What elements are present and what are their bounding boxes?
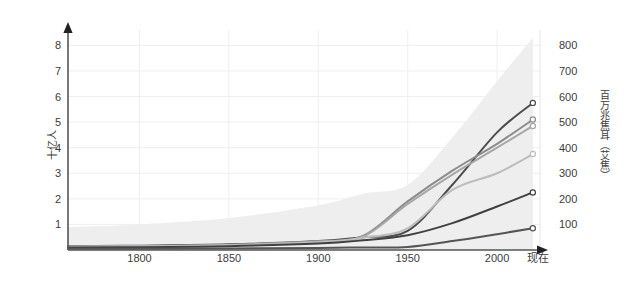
y-axis-tick-label: 1 xyxy=(55,218,61,230)
y2-axis-tick-label: 100 xyxy=(559,218,577,230)
x-axis-tick-labels: 18001850190019502000 xyxy=(127,252,509,264)
y2-axis-tick-label: 500 xyxy=(559,116,577,128)
y-axis-tick-label: 3 xyxy=(55,167,61,179)
uncertainty-band xyxy=(68,38,533,250)
series-end-marker-3 xyxy=(530,123,535,128)
y-axis-title: 十亿人 xyxy=(44,130,59,160)
y-axis-tick-label: 6 xyxy=(55,91,61,103)
y2-axis-tick-label: 400 xyxy=(559,142,577,154)
chart-container: 12345678 100200300400500600700800 180018… xyxy=(0,0,633,285)
y-axis xyxy=(63,22,72,250)
series-end-marker-1 xyxy=(530,100,535,105)
x-axis-tick-label: 1950 xyxy=(395,252,419,264)
y-axis-tick-label: 2 xyxy=(55,193,61,205)
y2-axis-tick-label: 200 xyxy=(559,193,577,205)
y2-axis-tick-labels: 100200300400500600700800 xyxy=(559,39,577,230)
series-end-marker-2 xyxy=(530,117,535,122)
y2-axis-tick-label: 700 xyxy=(559,65,577,77)
series-end-marker-5 xyxy=(530,190,535,195)
y2-axis-tick-label: 800 xyxy=(559,39,577,51)
x-axis-now-label: 现在 xyxy=(527,252,549,264)
y-axis-tick-label: 7 xyxy=(55,65,61,77)
y-axis-tick-label: 5 xyxy=(55,116,61,128)
x-axis-tick-label: 2000 xyxy=(485,252,509,264)
y2-axis-title: 百万兆焦耳（艾焦） xyxy=(598,90,608,180)
line-chart: 12345678 100200300400500600700800 180018… xyxy=(0,0,633,285)
band-area xyxy=(68,38,533,250)
y2-axis-tick-label: 600 xyxy=(559,91,577,103)
x-axis-tick-label: 1850 xyxy=(217,252,241,264)
y-axis-tick-label: 8 xyxy=(55,39,61,51)
series-end-marker-4 xyxy=(530,151,535,156)
x-axis-tick-label: 1800 xyxy=(127,252,151,264)
y2-axis-tick-label: 300 xyxy=(559,167,577,179)
x-axis-tick-label: 1900 xyxy=(306,252,330,264)
series-end-marker-6 xyxy=(530,226,535,231)
